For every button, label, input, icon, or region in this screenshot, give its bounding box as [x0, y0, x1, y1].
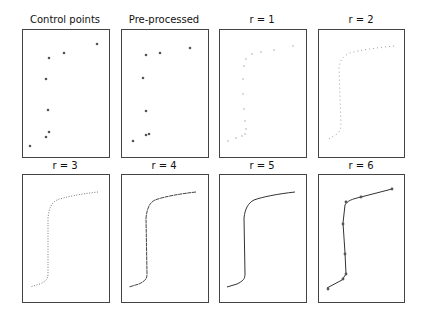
- panel-frame: [122, 30, 209, 158]
- r1-dots: [227, 45, 293, 141]
- r3-curve: [30, 192, 98, 287]
- r4-curve: [129, 192, 196, 287]
- panel-frame: [122, 175, 209, 303]
- r6-curve: [327, 189, 392, 288]
- r5-curve: [227, 192, 295, 287]
- panel-frame: [220, 175, 307, 303]
- panel-frame: [319, 175, 405, 303]
- panel-frame: [319, 30, 405, 158]
- panel-frame: [23, 175, 110, 303]
- r2-curve: [327, 46, 394, 140]
- figure-canvas: [0, 0, 424, 318]
- pre-processed-points: [132, 47, 192, 143]
- control-points: [29, 43, 99, 148]
- panel-frame: [23, 30, 110, 158]
- panel-frame: [220, 30, 307, 158]
- r6-control-points: [327, 188, 394, 291]
